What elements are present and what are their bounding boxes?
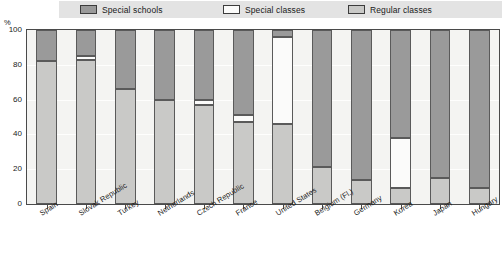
bar-segment-regular-classes — [272, 124, 292, 204]
chart-plot-area — [26, 29, 500, 205]
bar-segment-special-schools — [154, 30, 174, 100]
bar-segment-special-schools — [390, 30, 410, 138]
gridline — [27, 169, 499, 170]
bar-segment-regular-classes — [76, 60, 96, 204]
bar-japan[interactable] — [430, 30, 450, 204]
bar-segment-regular-classes — [154, 100, 174, 204]
bar-germany[interactable] — [351, 30, 371, 204]
bar-segment-special-schools — [272, 30, 292, 37]
gridline — [27, 134, 499, 135]
bar-segment-special-classes — [272, 37, 292, 124]
bar-slovak-republic[interactable] — [76, 30, 96, 204]
legend-swatch-special-classes — [223, 5, 240, 14]
bar-netherlands[interactable] — [154, 30, 174, 204]
legend-label-special-classes: Special classes — [245, 5, 305, 15]
legend-item-special-classes: Special classes — [223, 3, 305, 16]
bar-france[interactable] — [233, 30, 253, 204]
bar-belgium-fl[interactable] — [312, 30, 332, 204]
legend-swatch-special-schools — [80, 5, 97, 14]
bar-segment-special-classes — [390, 138, 410, 188]
gridline — [27, 65, 499, 66]
legend-label-special-schools: Special schools — [102, 5, 163, 15]
bar-segment-special-schools — [351, 30, 371, 180]
legend-label-regular-classes: Regular classes — [370, 5, 432, 15]
legend-item-regular-classes: Regular classes — [348, 3, 432, 16]
bar-segment-special-schools — [36, 30, 56, 61]
bar-segment-special-schools — [194, 30, 214, 100]
bar-segment-special-classes — [233, 115, 253, 122]
bar-segment-special-classes — [76, 56, 96, 59]
bar-segment-special-schools — [430, 30, 450, 178]
bar-segment-special-schools — [115, 30, 135, 89]
bar-segment-special-schools — [76, 30, 96, 56]
bar-segment-special-schools — [233, 30, 253, 115]
y-axis-tick-label: 60 — [0, 95, 22, 104]
bar-segment-special-schools — [312, 30, 332, 167]
legend-swatch-regular-classes — [348, 5, 365, 14]
chart-plot-inner — [27, 30, 499, 204]
legend-item-special-schools: Special schools — [80, 3, 163, 16]
y-axis-tick-label: 40 — [0, 129, 22, 138]
bar-czech-republic[interactable] — [194, 30, 214, 204]
bar-segment-regular-classes — [194, 105, 214, 204]
bar-hungary[interactable] — [469, 30, 489, 204]
chart-legend: Special schools Special classes Regular … — [59, 1, 502, 18]
bar-spain[interactable] — [36, 30, 56, 204]
gridline — [27, 100, 499, 101]
bar-korea[interactable] — [390, 30, 410, 204]
y-axis-tick-label: 100 — [0, 25, 22, 34]
y-axis-tick-label: 80 — [0, 60, 22, 69]
y-axis-tick-label: 20 — [0, 164, 22, 173]
bar-united-states[interactable] — [272, 30, 292, 204]
bar-segment-special-schools — [469, 30, 489, 188]
y-axis-tick-label: 0 — [0, 199, 22, 208]
bar-turkey[interactable] — [115, 30, 135, 204]
bar-segment-special-classes — [194, 100, 214, 105]
bar-segment-regular-classes — [36, 61, 56, 204]
